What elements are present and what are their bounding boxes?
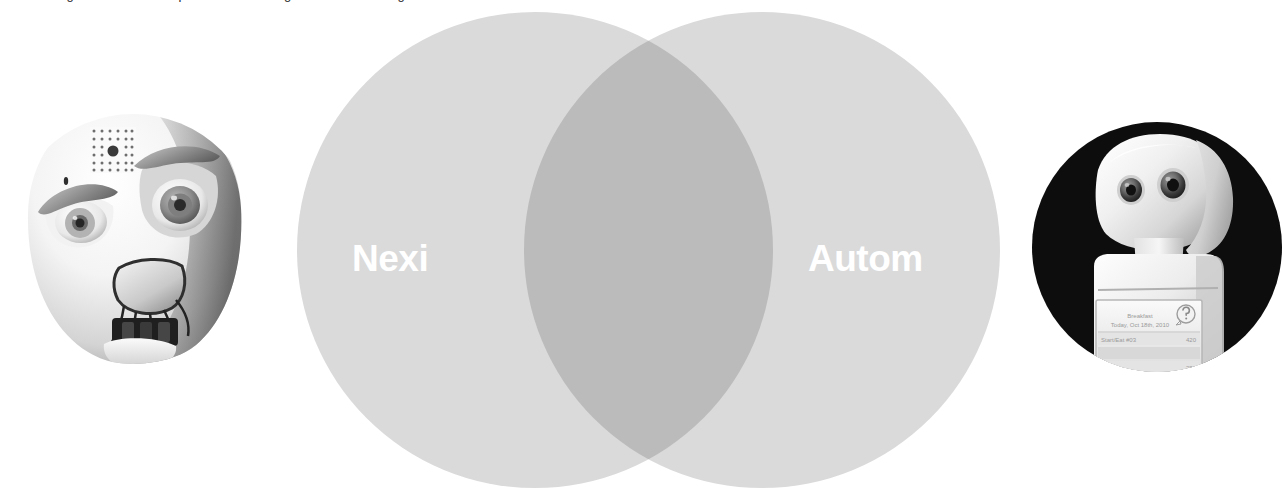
autom-screen-row1-value: 420 xyxy=(1186,337,1197,343)
autom-robot-photo: Breakfast Today, Oct 18th, 2010 Start/Ea… xyxy=(1032,122,1282,378)
autom-screen-row2-value: 280 xyxy=(1186,365,1197,371)
venn-label-right: Autom xyxy=(808,240,923,277)
venn-label-left: Nexi xyxy=(352,240,428,277)
nexi-robot-photo xyxy=(8,103,258,370)
autom-screen-title: Breakfast xyxy=(1127,313,1153,319)
autom-screen-date: Today, Oct 18th, 2010 xyxy=(1111,322,1170,328)
forehead-sensor-patch xyxy=(90,127,136,173)
autom-screen-row1-label: Start/Eat #03 xyxy=(1101,337,1137,343)
venn-diagram: Breakfast Today, Oct 18th, 2010 Start/Ea… xyxy=(0,0,1282,498)
autom-screen[interactable]: Breakfast Today, Oct 18th, 2010 Start/Ea… xyxy=(1096,300,1202,374)
